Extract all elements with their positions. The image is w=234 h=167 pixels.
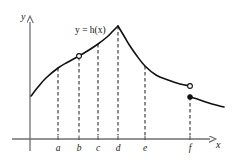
x-tick-label-e: e bbox=[139, 144, 151, 154]
x-tick-label-d: d bbox=[112, 144, 124, 154]
x-tick-label-a: a bbox=[52, 144, 64, 154]
y-axis-label: y bbox=[21, 12, 25, 22]
x-axis-label: x bbox=[216, 140, 220, 150]
marker-hole-at-b bbox=[77, 54, 82, 59]
discontinuity-markers bbox=[77, 54, 193, 100]
marker-point-at-f bbox=[188, 95, 193, 100]
x-tick-label-b: b bbox=[73, 144, 85, 154]
graph-figure: y = h(x) y x abcdef bbox=[0, 0, 234, 167]
x-tick-label-f: f bbox=[184, 144, 196, 154]
marker-hole-at-f bbox=[188, 84, 193, 89]
curve-equation-label: y = h(x) bbox=[75, 26, 106, 36]
curve-segment-1-1 bbox=[31, 26, 118, 96]
curve-segment-1-2 bbox=[118, 26, 190, 86]
function-curve bbox=[31, 26, 224, 107]
curve-segment-2-1 bbox=[190, 97, 224, 107]
x-tick-label-c: c bbox=[92, 144, 104, 154]
graph-canvas bbox=[0, 0, 234, 167]
